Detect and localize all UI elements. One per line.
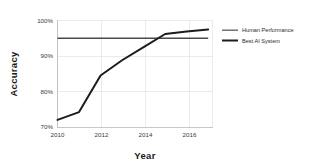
- x-tick-label-2014: 2014: [139, 131, 153, 138]
- chart-background: [0, 0, 319, 168]
- y-tick-label-70: 70%: [41, 123, 54, 130]
- legend-label-best-ai-system: Best AI System: [242, 38, 280, 44]
- legend-label-human-performance: Human Performance: [242, 27, 294, 33]
- x-tick-label-2012: 2012: [95, 131, 109, 138]
- x-axis-title: Year: [134, 150, 155, 161]
- accuracy-over-time-line-chart: 100% 90% 80% 70% 2010 2012 2014 2016 Yea…: [0, 0, 319, 168]
- y-axis-title: Accuracy: [8, 51, 19, 97]
- x-tick-label-2016: 2016: [183, 131, 197, 138]
- y-tick-label-90: 90%: [41, 52, 54, 59]
- x-tick-label-2010: 2010: [51, 131, 65, 138]
- y-tick-label-80: 80%: [41, 88, 54, 95]
- y-tick-label-100: 100%: [37, 17, 53, 24]
